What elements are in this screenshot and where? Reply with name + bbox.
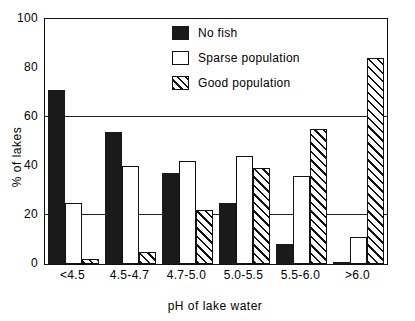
bar xyxy=(65,203,82,264)
x-tick-label: 5.5-6.0 xyxy=(281,268,320,282)
bar xyxy=(105,132,122,264)
bar xyxy=(310,129,327,264)
bar xyxy=(350,237,367,264)
bar xyxy=(219,203,236,264)
bar-chart: % of lakes 020406080100 <4.54.5-4.74.7-5… xyxy=(0,0,415,321)
y-tick-label: 0 xyxy=(8,257,38,269)
legend-swatch-icon xyxy=(172,51,189,65)
x-tick-label: 5.0-5.5 xyxy=(224,268,263,282)
x-axis-ticks: <4.54.5-4.74.7-5.05.0-5.55.5-6.0>6.0 xyxy=(44,268,388,288)
bar xyxy=(253,168,270,264)
legend-item: Good population xyxy=(172,76,300,90)
legend-item-label: No fish xyxy=(198,26,237,40)
legend-item: Sparse population xyxy=(172,51,300,65)
bar-group xyxy=(102,19,159,264)
x-tick-label: >6.0 xyxy=(345,268,370,282)
bar xyxy=(179,161,196,264)
y-tick-label: 40 xyxy=(8,159,38,171)
bar xyxy=(122,166,139,264)
bar xyxy=(236,156,253,264)
x-tick-label: <4.5 xyxy=(60,268,85,282)
legend-item-label: Good population xyxy=(198,76,291,90)
bar xyxy=(333,262,350,264)
bar-group xyxy=(45,19,102,264)
legend: No fishSparse populationGood population xyxy=(172,26,300,90)
x-axis-label: pH of lake water xyxy=(45,299,385,313)
legend-swatch-icon xyxy=(172,26,189,40)
y-tick-label: 100 xyxy=(8,12,38,24)
y-axis-ticks: 020406080100 xyxy=(6,0,38,321)
bar xyxy=(82,259,99,264)
y-tick-label: 80 xyxy=(8,61,38,73)
bar xyxy=(48,90,65,264)
x-tick-label: 4.5-4.7 xyxy=(110,268,149,282)
bar xyxy=(162,173,179,264)
y-tick-label: 20 xyxy=(8,208,38,220)
bar xyxy=(293,176,310,264)
bar xyxy=(367,58,384,264)
legend-item: No fish xyxy=(172,26,300,40)
legend-item-label: Sparse population xyxy=(198,51,300,65)
legend-swatch-icon xyxy=(172,76,189,90)
y-tick-label: 60 xyxy=(8,110,38,122)
bar xyxy=(139,252,156,264)
bar xyxy=(276,244,293,264)
bar xyxy=(196,210,213,264)
bar-group xyxy=(330,19,387,264)
x-tick-label: 4.7-5.0 xyxy=(167,268,206,282)
